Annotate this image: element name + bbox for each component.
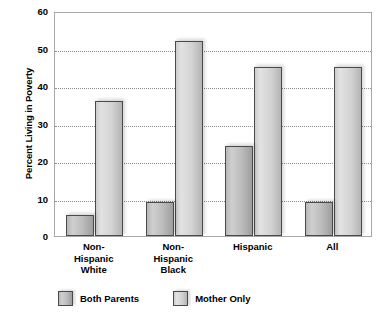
x-axis-label-hispanic: Hispanic — [213, 241, 293, 253]
x-axis-label-line: White — [54, 264, 134, 276]
bar-group-non-hispanic-white — [55, 13, 135, 236]
legend-swatch-icon — [173, 291, 188, 306]
x-axis-label-line: Hispanic — [54, 253, 134, 265]
x-axis-label-line: Hispanic — [213, 241, 293, 253]
bar-series-layer — [55, 13, 371, 236]
legend-item-mother-only[interactable]: Mother Only — [173, 291, 250, 306]
x-axis-category-labels: Non-HispanicWhiteNon-HispanicBlackHispan… — [54, 241, 372, 283]
bar-hispanic-both-parents[interactable] — [225, 146, 253, 236]
bar-all-both-parents[interactable] — [305, 202, 333, 236]
y-axis-tick-60: 60 — [24, 7, 48, 16]
x-axis-label-line: All — [293, 241, 373, 253]
chart-legend: Both ParentsMother Only — [54, 288, 372, 308]
bar-non-hispanic-black-mother-only[interactable] — [175, 41, 203, 236]
bar-hispanic-mother-only[interactable] — [254, 67, 282, 236]
legend-item-both-parents[interactable]: Both Parents — [58, 291, 139, 306]
bar-non-hispanic-white-both-parents[interactable] — [66, 215, 94, 236]
y-axis-tick-30: 30 — [24, 120, 48, 129]
y-axis-tick-labels: 0102030405060 — [24, 8, 48, 237]
x-axis-label-non-hispanic-white: Non-HispanicWhite — [54, 241, 134, 276]
x-axis-label-non-hispanic-black: Non-HispanicBlack — [134, 241, 214, 276]
bar-group-all — [294, 13, 374, 236]
legend-label: Both Parents — [80, 293, 139, 304]
y-axis-tick-50: 50 — [24, 45, 48, 54]
y-axis-tick-40: 40 — [24, 82, 48, 91]
x-axis-label-line: Non- — [54, 241, 134, 253]
bar-chart-figure: Percent Living in Poverty 0102030405060 … — [0, 0, 380, 315]
y-axis-tick-20: 20 — [24, 157, 48, 166]
bar-group-non-hispanic-black — [135, 13, 215, 236]
x-axis-label-line: Black — [134, 264, 214, 276]
plot-area — [54, 12, 372, 237]
legend-swatch-icon — [58, 291, 73, 306]
bar-non-hispanic-white-mother-only[interactable] — [95, 101, 123, 236]
x-axis-label-line: Non- — [134, 241, 214, 253]
x-axis-label-line: Hispanic — [134, 253, 214, 265]
bar-group-hispanic — [214, 13, 294, 236]
x-axis-label-all: All — [293, 241, 373, 253]
y-axis-tick-10: 10 — [24, 195, 48, 204]
bar-non-hispanic-black-both-parents[interactable] — [146, 202, 174, 236]
y-axis-tick-0: 0 — [24, 232, 48, 241]
legend-label: Mother Only — [195, 293, 250, 304]
bar-all-mother-only[interactable] — [334, 67, 362, 236]
